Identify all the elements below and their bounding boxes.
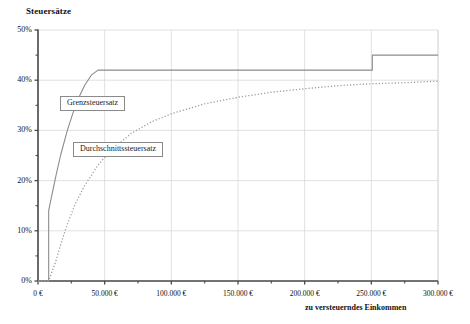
legend-callout-durchschnittssteuersatz: Durchschnittssteuersatz (73, 142, 163, 157)
legend-callout-grenzsteuersatz: Grenzsteuersatz (60, 96, 125, 111)
chart-page: Steuersätze zu versteuerndes Einkommen 0… (0, 0, 470, 324)
axis-lines (35, 30, 439, 285)
chart-plot-area (0, 0, 470, 324)
